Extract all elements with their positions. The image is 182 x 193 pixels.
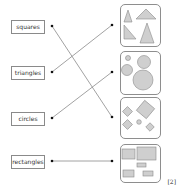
line-circles	[52, 72, 112, 118]
dot-rectangles-label[interactable]	[51, 160, 54, 163]
rectangle-shapes-icon	[122, 147, 156, 177]
marks-indicator: [2]	[168, 178, 177, 185]
dot-squares-label[interactable]	[51, 25, 54, 28]
dot-rectangles-picture[interactable]	[111, 160, 114, 163]
dot-triangles-label[interactable]	[51, 71, 54, 74]
square-shapes-icon	[123, 100, 155, 131]
line-triangles	[52, 25, 112, 72]
circle-shapes-icon	[122, 56, 154, 91]
triangle-shapes-icon	[124, 9, 156, 43]
dot-triangles-picture[interactable]	[111, 24, 114, 27]
match-lines	[52, 25, 112, 161]
dot-squares-picture[interactable]	[111, 116, 114, 119]
dots	[51, 24, 114, 163]
line-squares	[52, 26, 112, 117]
dot-circles-picture[interactable]	[111, 71, 114, 74]
matching-diagram	[0, 0, 182, 193]
dot-circles-label[interactable]	[51, 117, 54, 120]
